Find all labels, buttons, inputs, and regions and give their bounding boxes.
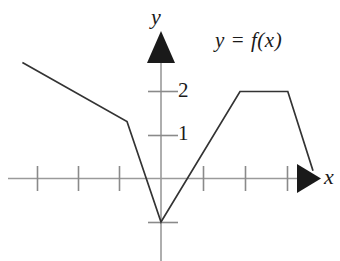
y-axis-label: y [151, 6, 161, 28]
graph-canvas [0, 0, 340, 261]
y-axis-arrowhead [147, 31, 175, 63]
y-tick-label-1: 1 [178, 123, 189, 144]
function-curve [22, 62, 313, 222]
x-axis-arrowhead [297, 164, 321, 193]
x-axis-label: x [324, 166, 334, 188]
curve-equation-label: y = f(x) [215, 30, 282, 51]
function-graph-figure: y x y = f(x) 2 1 [0, 0, 340, 261]
y-tick-label-2: 2 [178, 80, 189, 101]
